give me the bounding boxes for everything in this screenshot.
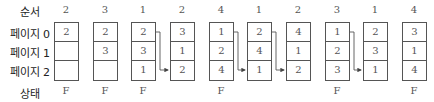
status-9: F — [402, 85, 426, 96]
frame-box-5: 2 4 1 — [247, 22, 272, 81]
frame-cell: 2 — [55, 23, 78, 42]
status-4: F — [209, 85, 233, 96]
frame-cell: 1 — [210, 23, 233, 42]
frame-box-7: 1 2 3 — [325, 22, 350, 81]
frame-cell: 2 — [287, 61, 310, 80]
page2-label: 페이지 2 — [0, 63, 50, 79]
sequence-label: 순서 — [14, 3, 46, 19]
frame-cell: 3 — [326, 61, 349, 80]
frame-cell: 4 — [403, 61, 426, 80]
frame-box-3: 3 1 2 — [170, 22, 195, 81]
frame-cell: 2 — [364, 23, 387, 42]
reference-4: 4 — [209, 4, 233, 15]
frame-cell: 1 — [171, 42, 194, 61]
frame-cell: 2 — [132, 23, 155, 42]
frame-box-4: 1 2 4 — [209, 22, 234, 81]
status-7: F — [325, 85, 349, 96]
status-label: 상태 — [14, 85, 46, 101]
frame-cell: 3 — [171, 23, 194, 42]
frame-cell: 4 — [248, 42, 271, 61]
frame-cell: 4 — [287, 23, 310, 42]
frame-cell: 2 — [171, 61, 194, 80]
page1-label: 페이지 1 — [0, 44, 50, 60]
frame-cell: 2 — [248, 23, 271, 42]
frame-cell — [94, 61, 117, 80]
frame-cell: 4 — [210, 61, 233, 80]
frame-cell: 3 — [364, 42, 387, 61]
status-0: F — [54, 85, 78, 96]
frame-cell: 1 — [403, 42, 426, 61]
frame-box-6: 4 1 2 — [286, 22, 311, 81]
reference-3: 2 — [170, 4, 194, 15]
frame-cell: 1 — [248, 61, 271, 80]
arrow-icon — [272, 32, 284, 70]
frame-cell — [55, 61, 78, 80]
frame-box-0: 2 — [54, 22, 79, 81]
frame-cell: 1 — [287, 42, 310, 61]
reference-2: 1 — [131, 4, 155, 15]
frame-box-9: 3 1 4 — [402, 22, 427, 81]
frame-cell: 2 — [326, 42, 349, 61]
arrow-icon — [156, 32, 168, 70]
frame-cell: 3 — [132, 42, 155, 61]
page0-label: 페이지 0 — [0, 25, 50, 41]
frame-box-8: 2 3 1 — [363, 22, 388, 81]
frame-cell: 2 — [210, 42, 233, 61]
status-1: F — [93, 85, 117, 96]
frame-box-2: 2 3 1 — [131, 22, 156, 81]
arrow-icon — [234, 32, 245, 70]
reference-0: 2 — [54, 4, 78, 15]
reference-7: 3 — [325, 4, 349, 15]
status-2: F — [131, 85, 155, 96]
frame-cell: 1 — [364, 61, 387, 80]
arrow-icon — [350, 32, 361, 70]
reference-9: 4 — [402, 4, 426, 15]
frame-cell: 1 — [326, 23, 349, 42]
frame-box-1: 2 3 — [93, 22, 118, 81]
frame-cell — [55, 42, 78, 61]
frame-cell: 3 — [94, 42, 117, 61]
reference-1: 3 — [93, 4, 117, 15]
frame-cell: 3 — [403, 23, 426, 42]
frame-cell: 1 — [132, 61, 155, 80]
reference-8: 1 — [363, 4, 387, 15]
frame-cell: 2 — [94, 23, 117, 42]
reference-6: 2 — [286, 4, 310, 15]
reference-5: 1 — [247, 4, 271, 15]
